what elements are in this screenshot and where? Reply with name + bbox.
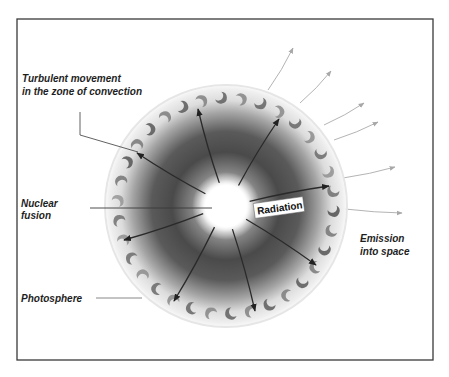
label-fusion-line1: Nuclear — [21, 198, 59, 209]
label-emission-line1: Emission — [360, 233, 404, 244]
diagram-canvas: Turbulent movement in the zone of convec… — [0, 0, 449, 377]
label-fusion-line2: fusion — [21, 210, 51, 221]
label-convection-line2: in the zone of convection — [22, 86, 142, 97]
sun-diagram: Turbulent movement in the zone of convec… — [0, 0, 449, 377]
sun-core — [192, 172, 260, 240]
label-convection-line1: Turbulent movement — [22, 73, 121, 84]
label-photosphere: Photosphere — [21, 293, 83, 304]
label-emission-line2: into space — [360, 246, 410, 257]
